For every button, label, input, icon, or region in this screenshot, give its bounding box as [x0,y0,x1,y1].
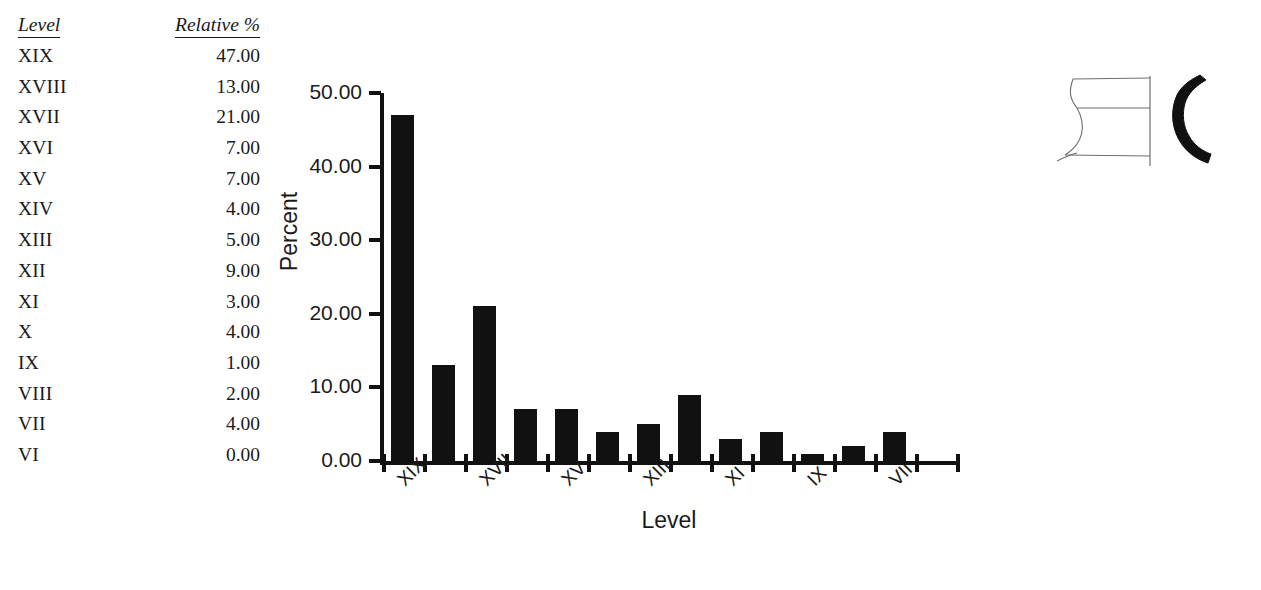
table: Level Relative % XIX47.00XVIII13.00XVII2… [18,14,268,470]
ceramic-vessel-profile-icon [1055,62,1235,182]
x-axis-tick [628,454,632,472]
cell-level: X [18,317,128,348]
y-axis-tick-label: 10.00 [309,374,362,398]
cell-relative-percent: 4.00 [128,317,268,348]
vessel-outline-group [1057,78,1150,161]
y-axis-tick-label: 50.00 [309,80,362,104]
cell-relative-percent: 47.00 [128,40,268,71]
cell-level: XIX [18,40,128,71]
vessel-profile-svg [1055,62,1235,182]
table-row: XIX47.00 [18,40,268,71]
bar [555,409,578,461]
cell-level: XII [18,255,128,286]
cell-level: XIV [18,194,128,225]
table-row: XII9.00 [18,255,268,286]
bar [842,446,865,461]
cell-relative-percent: 13.00 [128,71,268,102]
cell-level: XIII [18,225,128,256]
x-axis-tick [915,454,919,472]
y-axis-tick-label: 0.00 [321,448,362,472]
vessel-section-profile [1173,75,1211,163]
x-axis-tick [833,454,837,472]
column-header-relative-percent-text: Relative % [175,14,260,38]
x-axis-tick [382,454,386,472]
y-axis-title: Percent [276,192,303,271]
level-percentage-table: Level Relative % XIX47.00XVIII13.00XVII2… [18,14,268,470]
cell-relative-percent: 4.00 [128,409,268,440]
vessel-rim-top-line [1073,78,1150,79]
cell-level: VI [18,439,128,470]
cell-relative-percent: 9.00 [128,255,268,286]
cell-level: XI [18,286,128,317]
x-axis-tick [464,454,468,472]
vessel-body-curve [1065,108,1082,155]
table-row: VIII2.00 [18,378,268,409]
cell-level: XVII [18,102,128,133]
cell-level: XVI [18,132,128,163]
x-axis-tick [751,454,755,472]
column-header-level: Level [18,14,128,40]
cell-level: VII [18,409,128,440]
column-header-relative-percent: Relative % [128,14,268,40]
y-axis-tick-label: 30.00 [309,227,362,251]
bar [637,424,660,461]
x-axis-tick [956,454,960,472]
table-row: XIV4.00 [18,194,268,225]
bar [473,306,496,461]
table-row: XVI7.00 [18,132,268,163]
vessel-base-line [1065,155,1150,156]
cell-level: IX [18,347,128,378]
y-axis-tick-label: 20.00 [309,301,362,325]
x-axis-tick-label: XI [721,462,749,490]
table-row: XVIII13.00 [18,71,268,102]
cell-level: XVIII [18,71,128,102]
x-axis-tick [710,454,714,472]
cell-relative-percent: 7.00 [128,163,268,194]
table-header: Level Relative % [18,14,268,40]
cell-level: VIII [18,378,128,409]
table-body: XIX47.00XVIII13.00XVII21.00XVI7.00XV7.00… [18,40,268,470]
bar-chart: Percent 0.0010.0020.0030.0040.0050.00 XI… [258,60,998,560]
bar [432,365,455,461]
cell-relative-percent: 7.00 [128,132,268,163]
table-row: XIII5.00 [18,225,268,256]
table-row: IX1.00 [18,347,268,378]
cell-relative-percent: 3.00 [128,286,268,317]
table-row: XI3.00 [18,286,268,317]
bar [391,115,414,461]
x-axis-tick-label: IX [803,462,831,490]
bar [596,432,619,461]
table-row: VI0.00 [18,439,268,470]
bars-container [384,93,958,461]
cell-relative-percent: 1.00 [128,347,268,378]
table-row: X4.00 [18,317,268,348]
cell-relative-percent: 5.00 [128,225,268,256]
x-axis-tick [874,454,878,472]
y-axis-tick-label: 40.00 [309,154,362,178]
bar [760,432,783,461]
cell-relative-percent: 21.00 [128,102,268,133]
bar [801,454,824,461]
bar [883,432,906,461]
bar [678,395,701,461]
cell-relative-percent: 0.00 [128,439,268,470]
bar [514,409,537,461]
cell-relative-percent: 2.00 [128,378,268,409]
cell-relative-percent: 4.00 [128,194,268,225]
vessel-rim-left-edge [1070,79,1077,108]
x-axis-tick [546,454,550,472]
table-header-row: Level Relative % [18,14,268,40]
cell-level: XV [18,163,128,194]
table-row: XV7.00 [18,163,268,194]
x-axis-tick [792,454,796,472]
table-row: VII4.00 [18,409,268,440]
x-axis-title: Level [380,507,958,534]
column-header-level-text: Level [18,14,60,38]
table-row: XVII21.00 [18,102,268,133]
bar [719,439,742,461]
